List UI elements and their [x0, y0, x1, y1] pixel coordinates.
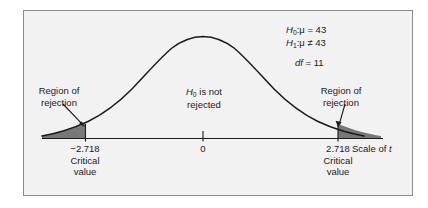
x-axis-variable: t [389, 143, 392, 154]
x-axis-title-text: Scale of [352, 143, 389, 154]
alternative-hypothesis-subscript: 1 [293, 42, 297, 49]
alternative-hypothesis: H1:μ ≠ 43 [286, 37, 326, 50]
degrees-of-freedom: df = 11 [286, 57, 326, 69]
df-value: = 11 [303, 57, 324, 68]
acceptance-region-symbol: H [186, 86, 193, 97]
null-hypothesis-subscript: 0 [293, 29, 297, 36]
alternative-hypothesis-text: :μ ≠ 43 [297, 37, 326, 48]
region-of-rejection-label-left: Region of rejection [26, 85, 92, 108]
hypotheses-block: H0:μ = 43 H1:μ ≠ 43 df = 11 [286, 24, 326, 69]
null-hypothesis-symbol: H [286, 24, 293, 35]
critical-value-label-left: −2.718 Critical value [52, 143, 118, 178]
region-of-rejection-label-right: Region of rejection [308, 85, 374, 108]
axis-label-zero: 0 [188, 143, 218, 155]
acceptance-region-label: H0 is not rejected [160, 86, 248, 110]
df-symbol: df [295, 57, 303, 68]
null-hypothesis: H0:μ = 43 [286, 24, 326, 37]
acceptance-region-subscript: 0 [193, 91, 197, 98]
null-hypothesis-text: :μ = 43 [297, 24, 327, 35]
alternative-hypothesis-symbol: H [286, 37, 293, 48]
x-axis-title: Scale of t [352, 143, 392, 155]
